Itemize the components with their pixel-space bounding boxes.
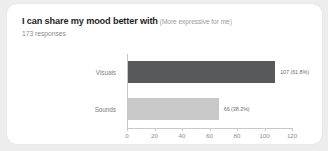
question-title: I can share my mood better with(More exp… [22,13,312,27]
category-label-sounds: Sounds [95,106,116,113]
x-axis-tick [292,128,293,131]
card-header: I can share my mood better with(More exp… [22,13,312,38]
bar-sounds[interactable] [128,98,219,120]
question-title-qualifier: (More expressive for me) [160,18,232,25]
category-label-visuals: Visuals [96,69,116,76]
chart-plot-area: Visuals 107 (61.8%) Sounds 66 (38.2%) 02… [127,54,292,128]
page-background: I can share my mood better with(More exp… [0,0,328,151]
x-axis-tick [155,128,156,131]
x-axis-tick [182,128,183,131]
x-axis-tick-label: 80 [234,132,241,139]
x-axis-tick [210,128,211,131]
bar-value-sounds: 66 (38.2%) [224,106,250,112]
survey-result-card: I can share my mood better with(More exp… [7,4,322,144]
bar-chart: Visuals 107 (61.8%) Sounds 66 (38.2%) 02… [7,48,322,144]
x-axis-tick-label: 60 [206,132,213,139]
x-axis-tick-label: 120 [287,132,297,139]
x-axis-tick-label: 0 [125,132,128,139]
bar-row: Sounds 66 (38.2%) [128,98,219,120]
x-axis-tick-label: 100 [259,132,269,139]
response-count: 173 responses [22,30,312,38]
x-axis-tick [265,128,266,131]
bar-row: Visuals 107 (61.8%) [128,61,275,83]
x-axis-tick-label: 40 [179,132,186,139]
x-axis-tick [127,128,128,131]
bar-visuals[interactable] [128,61,275,83]
x-axis-tick-label: 20 [151,132,158,139]
question-title-main: I can share my mood better with [22,16,158,26]
x-axis-tick [237,128,238,131]
bar-value-visuals: 107 (61.8%) [280,69,309,75]
